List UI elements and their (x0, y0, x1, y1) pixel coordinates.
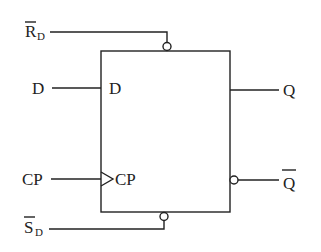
set-input: S D (24, 213, 168, 239)
q-bar-label: Q (283, 174, 295, 193)
set-subscript: D (35, 226, 43, 238)
data-input: D D (32, 79, 121, 98)
set-label: S (24, 218, 33, 237)
q-label: Q (283, 81, 295, 100)
reset-label: R (25, 22, 37, 41)
q-output: Q (230, 81, 295, 100)
reset-inversion-bubble-icon (163, 43, 171, 51)
set-wire (49, 221, 164, 229)
d-flip-flop-diagram: R D D D CP CP S D Q Q (0, 0, 321, 252)
q-bar-inversion-bubble-icon (230, 176, 238, 184)
clock-external-label: CP (22, 170, 43, 189)
clock-pin-label: CP (115, 170, 136, 189)
q-bar-output: Q (230, 170, 296, 193)
reset-wire (50, 32, 167, 42)
data-external-label: D (32, 79, 44, 98)
clock-input: CP CP (22, 170, 136, 189)
reset-subscript: D (37, 30, 45, 42)
set-inversion-bubble-icon (160, 213, 168, 221)
data-pin-label: D (109, 79, 121, 98)
reset-input: R D (25, 22, 171, 51)
clock-triangle-icon (101, 172, 113, 186)
